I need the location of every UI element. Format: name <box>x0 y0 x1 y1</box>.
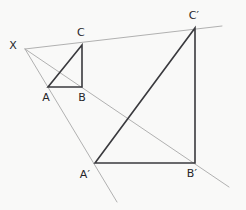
figure-background <box>0 0 246 210</box>
vertex-label-c: C <box>77 26 85 39</box>
geometry-figure-container: X C C′ A B A′ B′ <box>0 0 246 210</box>
vertex-label-x: X <box>9 39 17 52</box>
dilation-diagram-svg: X C C′ A B A′ B′ <box>0 0 246 210</box>
vertex-label-b: B <box>78 91 86 104</box>
vertex-label-c-prime: C′ <box>189 9 200 22</box>
vertex-label-a: A <box>42 91 50 104</box>
vertex-label-b-prime: B′ <box>187 167 198 180</box>
vertex-label-a-prime: A′ <box>80 168 91 181</box>
